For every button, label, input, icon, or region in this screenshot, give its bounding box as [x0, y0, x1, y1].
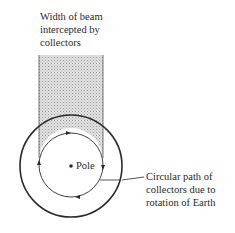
beam-label-line: Width of beam — [40, 10, 103, 23]
path-label-line: rotation of Earth — [146, 196, 215, 209]
beam-region — [39, 55, 103, 165]
leader-line-ext — [122, 177, 144, 180]
pole-dot — [69, 164, 73, 168]
beam-label-line: intercepted by — [40, 23, 103, 36]
beam-label-line: collectors — [40, 36, 103, 49]
path-label-line: Circular path of — [146, 170, 215, 183]
circular-path-label: Circular path of collectors due to rotat… — [146, 170, 215, 209]
pole-label: Pole — [76, 159, 95, 172]
path-label-line: collectors due to — [146, 183, 215, 196]
beam-width-label: Width of beam intercepted by collectors — [40, 10, 103, 49]
